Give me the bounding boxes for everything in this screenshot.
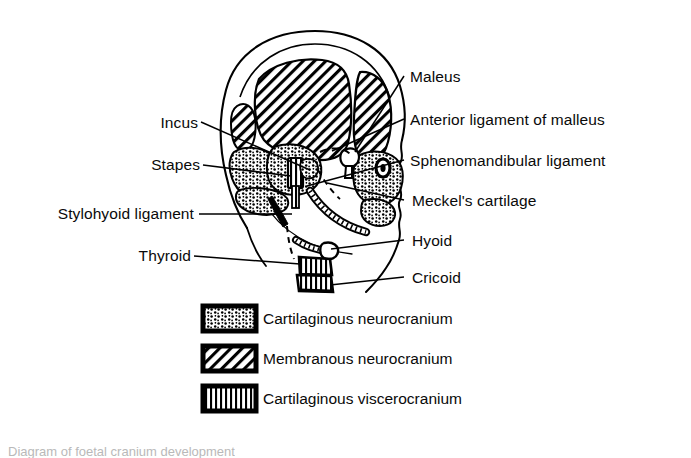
label-thyroid: Thyroid [60, 248, 191, 264]
nasal-capsule-cartilage [361, 199, 395, 226]
leader-cricoid [330, 277, 404, 285]
figure-caption: Diagram of foetal cranium development [8, 444, 235, 458]
label-meckels-cartilage: Meckel's cartilage [412, 193, 537, 209]
legend-swatch-membranous-neurocranium [203, 346, 256, 371]
leader-hyoid [331, 240, 404, 249]
label-maleus: Maleus [410, 69, 461, 85]
legend-label-cartilaginous-neurocranium: Cartilaginous neurocranium [263, 311, 453, 327]
label-hyoid: Hyoid [412, 233, 452, 249]
legend-label-cartilaginous-viscerocranium: Cartilaginous viscerocranium [263, 391, 462, 407]
thyroid-cartilage [299, 257, 332, 275]
incus-body [300, 159, 318, 179]
label-stylohyoid-ligament: Stylohyoid ligament [20, 206, 194, 222]
label-incus: Incus [60, 115, 198, 131]
hyoid-body [320, 243, 338, 260]
legend-swatches-group [203, 306, 256, 411]
legend-swatch-cartilaginous-neurocranium [203, 306, 256, 331]
label-cricoid: Cricoid [412, 270, 461, 286]
ossicle-stem [292, 186, 299, 208]
label-sphenomandibular-ligament: Sphenomandibular ligament [410, 153, 606, 169]
parietal-bone [255, 59, 351, 160]
legend-label-membranous-neurocranium: Membranous neurocranium [263, 351, 453, 367]
legend-swatch-cartilaginous-viscerocranium [203, 386, 256, 411]
label-anterior-ligament-of-malleus: Anterior ligament of malleus [410, 112, 605, 128]
frontal-bone [354, 72, 391, 162]
label-stapes: Stapes [60, 157, 200, 173]
leader-thyroid [194, 256, 300, 264]
cricoid-lower-rim [300, 290, 330, 291]
